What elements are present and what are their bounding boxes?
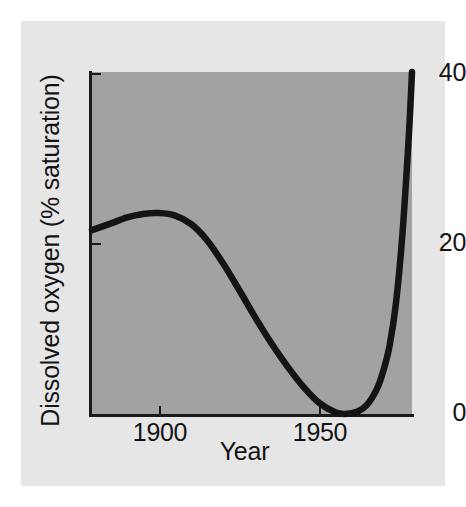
data-curve-svg — [0, 0, 466, 507]
dissolved-oxygen-line — [92, 72, 412, 414]
figure-container: 40 20 0 1900 1950 Year Dissolved oxygen … — [0, 0, 466, 507]
